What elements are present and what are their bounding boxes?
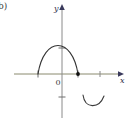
parabola-figure: b) 0 y x bbox=[0, 0, 126, 124]
x-axis-label: x bbox=[120, 76, 125, 85]
origin-label: 0 bbox=[56, 78, 61, 87]
y-axis-arrow-icon bbox=[59, 4, 65, 10]
root-point-marker bbox=[76, 72, 80, 76]
parabola-curve bbox=[38, 46, 78, 75]
y-axis-label: y bbox=[53, 4, 59, 13]
small-arc-curve bbox=[83, 95, 104, 106]
coordinate-plot: 0 y x bbox=[0, 0, 126, 124]
